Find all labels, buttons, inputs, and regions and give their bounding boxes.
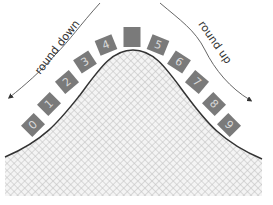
diagram-canvas: round down round up 0123456789 xyxy=(0,0,273,205)
round-down-label: round down xyxy=(32,18,82,77)
rounding-diagram: round down round up 0123456789 xyxy=(0,0,273,205)
digit-box-2: 2 xyxy=(55,70,79,94)
round-up-label: round up xyxy=(196,18,235,66)
digit-box-7: 7 xyxy=(185,70,209,94)
digit-box-3: 3 xyxy=(73,50,97,73)
digit-box-1: 1 xyxy=(37,92,61,116)
digit-box-8: 8 xyxy=(202,92,226,116)
digit-box-5: 5 xyxy=(147,34,170,56)
digit-box-6: 6 xyxy=(167,50,191,73)
digit-box-blank xyxy=(124,27,141,47)
digit-box-0: 0 xyxy=(21,113,45,137)
digit-box-4: 4 xyxy=(95,34,118,56)
